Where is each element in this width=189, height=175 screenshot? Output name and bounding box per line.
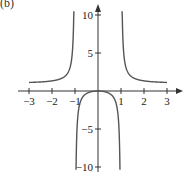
function-plot: −3−2−1123105−5−10: [0, 0, 189, 175]
curve-right-branch: [122, 11, 167, 82]
x-tick-label: 2: [141, 95, 147, 107]
x-tick-label: −2: [46, 95, 58, 107]
y-tick-label: 10: [82, 9, 94, 21]
x-tick-label: 1: [118, 95, 124, 107]
y-tick-label: 5: [88, 47, 94, 59]
x-tick-label: −3: [23, 95, 35, 107]
y-axis-arrow-icon: [95, 4, 101, 12]
x-axis-arrow-icon: [176, 88, 183, 94]
x-tick-label: 3: [164, 95, 170, 107]
y-tick-label: −5: [81, 123, 93, 135]
y-tick-label: −10: [76, 161, 94, 173]
curve-left-branch: [29, 11, 74, 82]
